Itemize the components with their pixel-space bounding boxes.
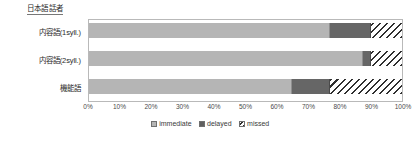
bars-container: [89, 20, 402, 101]
x-axis-ticks: 0%10%20%30%40%50%60%70%80%90%100%: [88, 103, 403, 115]
chart-title: 日本語話者: [27, 2, 63, 15]
bar-segment-missed: [371, 51, 402, 66]
bar-segment-delayed: [330, 23, 371, 38]
legend-item-delayed: delayed: [199, 120, 232, 127]
bar-segment-immediate: [89, 23, 330, 38]
category-label-1: 内容語(2syll.): [39, 54, 81, 65]
legend-label-missed: missed: [247, 120, 269, 127]
x-tick-label-30: 30%: [176, 103, 189, 110]
x-tick-label-20: 20%: [144, 103, 157, 110]
x-tick-label-50: 50%: [239, 103, 252, 110]
legend-item-missed: missed: [239, 120, 270, 127]
x-tick-label-40: 40%: [207, 103, 220, 110]
x-tick-label-90: 90%: [365, 103, 378, 110]
legend-item-immediate: immediate: [151, 120, 192, 127]
bar-segment-missed: [330, 79, 402, 94]
category-axis-labels: 内容語(1syll.) 内容語(2syll.) 機能語: [0, 19, 85, 102]
legend-swatch-immediate-icon: [151, 121, 157, 127]
bar-segment-missed: [371, 23, 402, 38]
bar-segment-delayed: [363, 51, 371, 66]
legend-label-immediate: immediate: [159, 120, 191, 127]
x-tick-label-70: 70%: [302, 103, 315, 110]
x-tick-label-100: 100%: [395, 103, 412, 110]
x-tick-label-10: 10%: [113, 103, 126, 110]
legend-swatch-delayed-icon: [199, 121, 205, 127]
table-row: [89, 23, 402, 38]
bar-segment-delayed: [292, 79, 330, 94]
x-tick-label-60: 60%: [270, 103, 283, 110]
category-label-0: 内容語(1syll.): [39, 26, 81, 37]
x-tick-label-80: 80%: [333, 103, 346, 110]
legend-label-delayed: delayed: [207, 120, 232, 127]
stacked-bar-chart: 日本語話者 内容語(1syll.) 内容語(2syll.) 機能語 0%10%2…: [0, 0, 420, 141]
x-tick-label-0: 0%: [83, 103, 92, 110]
table-row: [89, 51, 402, 66]
bar-segment-immediate: [89, 51, 363, 66]
category-label-2: 機能語: [60, 82, 81, 93]
table-row: [89, 79, 402, 94]
chart-legend: immediate delayed missed: [0, 120, 420, 127]
bar-segment-immediate: [89, 79, 292, 94]
legend-swatch-missed-icon: [239, 121, 245, 127]
